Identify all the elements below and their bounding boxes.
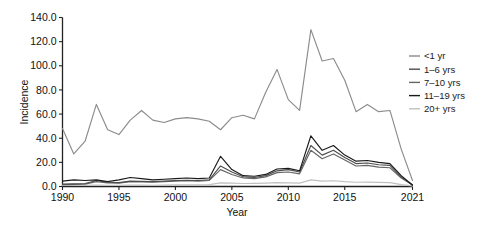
y-tick-label: 140.0 <box>30 11 56 23</box>
legend-label: <1 yr <box>424 50 445 61</box>
x-tick-label: 2010 <box>277 191 301 203</box>
legend-label: 11–19 yrs <box>424 90 465 101</box>
incidence-by-age-line-chart: 0.020.040.060.080.0100.0120.0140.0 19901… <box>0 0 483 225</box>
y-tick-label: 120.0 <box>30 35 56 47</box>
x-tick-label: 2005 <box>220 191 244 203</box>
y-tick-label: 80.0 <box>36 84 57 96</box>
legend-label: 20+ yrs <box>424 103 456 114</box>
y-tick-label: 100.0 <box>30 59 56 71</box>
legend-label: 1–6 yrs <box>424 64 455 75</box>
y-axis-label: Incidence <box>18 79 30 124</box>
x-tick-label: 1995 <box>107 191 131 203</box>
legend-label: 7–10 yrs <box>424 77 461 88</box>
x-axis-label: Year <box>226 206 248 218</box>
x-tick-label: 2021 <box>401 191 425 203</box>
y-tick-label: 60.0 <box>36 108 57 120</box>
x-tick-label: 2000 <box>164 191 188 203</box>
y-tick-label: 20.0 <box>36 156 57 168</box>
x-tick-label: 1990 <box>51 191 75 203</box>
x-tick-label: 2015 <box>333 191 357 203</box>
y-tick-label: 40.0 <box>36 132 57 144</box>
